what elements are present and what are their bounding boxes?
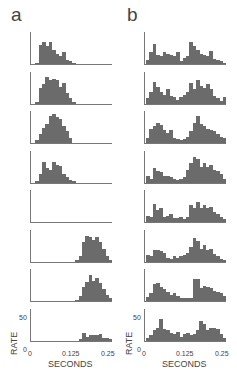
histogram-bar	[72, 63, 76, 64]
x-axis	[30, 143, 112, 144]
histogram-b-6	[144, 230, 228, 263]
bars	[32, 32, 112, 64]
histogram-bar	[223, 97, 227, 103]
x-axis	[30, 262, 112, 263]
x-axis	[30, 301, 112, 302]
x-axis	[30, 104, 112, 105]
bars	[146, 309, 226, 341]
x-axis	[30, 183, 112, 184]
histogram-a-7	[30, 269, 114, 302]
histogram-a-1	[30, 32, 114, 65]
xlabel-a: SECONDS	[48, 359, 93, 369]
histogram-b-4	[144, 151, 228, 184]
y-axis	[30, 151, 31, 183]
histogram-bar	[223, 296, 227, 301]
xtick-0-a: 0	[28, 350, 32, 357]
y-axis	[144, 72, 145, 104]
x-axis	[144, 262, 226, 263]
x-axis	[144, 104, 226, 105]
ylabel-a: RATE	[9, 332, 19, 355]
x-axis	[144, 341, 226, 342]
histogram-bar	[109, 298, 113, 301]
ytick-0-b: 0	[137, 346, 141, 353]
histogram-a-4	[30, 151, 114, 184]
y-axis	[30, 309, 31, 341]
bars	[146, 111, 226, 143]
histogram-bar	[223, 63, 227, 64]
x-axis	[30, 222, 112, 223]
histogram-bar	[223, 179, 227, 183]
panel-label-a: a	[11, 5, 22, 24]
y-axis	[144, 190, 145, 222]
panel-label-b: b	[127, 5, 138, 24]
xtick-0125-a: 0.125	[62, 350, 80, 357]
xtick-025-b: 0.25	[215, 350, 229, 357]
y-axis	[144, 111, 145, 143]
histogram-a-5	[30, 190, 114, 223]
histogram-bar	[69, 138, 73, 143]
xtick-0-b: 0	[142, 350, 146, 357]
bars	[146, 72, 226, 104]
histogram-bar	[72, 102, 76, 103]
bars	[32, 111, 112, 143]
y-axis	[30, 72, 31, 104]
histogram-b-8	[144, 309, 228, 342]
y-axis	[144, 32, 145, 64]
bars	[146, 190, 226, 222]
y-axis	[30, 111, 31, 143]
xlabel-b: SECONDS	[162, 359, 207, 369]
bars	[32, 190, 112, 222]
y-axis	[30, 230, 31, 262]
histogram-b-7	[144, 269, 228, 302]
y-axis	[144, 230, 145, 262]
y-axis	[144, 151, 145, 183]
bars	[32, 230, 112, 262]
histogram-bar	[223, 338, 227, 341]
histogram-a-8	[30, 309, 114, 342]
ytick-50-a: 50	[19, 314, 27, 321]
bars	[32, 269, 112, 301]
y-axis	[30, 32, 31, 64]
x-axis	[144, 143, 226, 144]
bars	[146, 151, 226, 183]
x-axis	[144, 183, 226, 184]
histogram-b-1	[144, 32, 228, 65]
y-axis	[30, 269, 31, 301]
histogram-bar	[109, 260, 113, 261]
histogram-a-2	[30, 72, 114, 105]
ytick-50-b: 50	[133, 314, 141, 321]
histogram-b-5	[144, 190, 228, 223]
bars	[32, 72, 112, 104]
histogram-bar	[223, 260, 227, 261]
ylabel-b: RATE	[124, 332, 134, 355]
bars	[146, 32, 226, 64]
histogram-bar	[109, 339, 113, 340]
bars	[146, 230, 226, 262]
y-axis	[144, 269, 145, 301]
histogram-a-6	[30, 230, 114, 263]
x-axis	[144, 301, 226, 302]
xtick-0125-b: 0.125	[176, 350, 194, 357]
x-axis	[30, 64, 112, 65]
bars	[32, 151, 112, 183]
y-axis	[30, 190, 31, 222]
histogram-a-3	[30, 111, 114, 144]
x-axis	[144, 222, 226, 223]
bars	[32, 309, 112, 341]
histogram-bar	[223, 219, 227, 222]
x-axis	[30, 341, 112, 342]
ytick-0-a: 0	[23, 346, 27, 353]
y-axis	[144, 309, 145, 341]
bars	[146, 269, 226, 301]
histogram-bar	[72, 181, 76, 182]
histogram-b-2	[144, 72, 228, 105]
x-axis	[144, 64, 226, 65]
histogram-bar	[223, 138, 227, 143]
xtick-025-a: 0.25	[101, 350, 115, 357]
histogram-b-3	[144, 111, 228, 144]
